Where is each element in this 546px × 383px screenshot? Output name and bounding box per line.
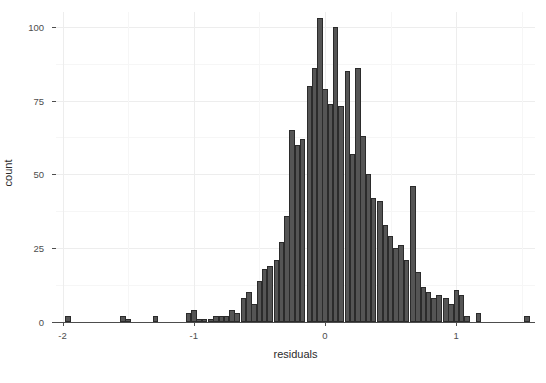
x-tick-mark [63,322,64,326]
x-tick-label: 1 [454,330,459,341]
y-tick-label: 100 [28,21,44,32]
histogram-bars [56,12,535,322]
y-tick-label: 25 [33,243,44,254]
x-axis-line [56,322,535,323]
histogram-bar [234,313,240,322]
x-tick-mark [456,322,457,326]
y-tick-mark [52,248,56,249]
y-tick-label: 50 [33,169,44,180]
histogram-bar [338,106,344,322]
histogram-figure: -2-101 0255075100 residuals count [0,0,546,383]
histogram-bar [404,260,410,322]
y-axis-title: count [2,143,14,203]
y-tick-mark [52,174,56,175]
x-tick-mark [325,322,326,326]
y-tick-mark [52,322,56,323]
x-tick-label: 0 [322,330,327,341]
histogram-bar [300,139,306,322]
x-tick-label: -2 [58,330,66,341]
y-tick-mark [52,101,56,102]
y-tick-mark [52,27,56,28]
y-tick-label: 0 [39,317,44,328]
histogram-bar [436,295,442,322]
x-axis-title: residuals [56,348,535,360]
x-tick-mark [194,322,195,326]
plot-panel [56,12,535,322]
histogram-bar [267,266,273,322]
histogram-bar [371,198,377,322]
histogram-bar [476,313,482,322]
x-tick-label: -1 [190,330,198,341]
y-tick-label: 75 [33,95,44,106]
